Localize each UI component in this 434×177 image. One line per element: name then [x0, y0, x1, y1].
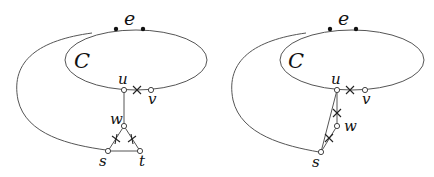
edge-e-endpoint: [328, 27, 332, 31]
label-c: C: [74, 49, 90, 73]
label-e: e: [338, 7, 349, 29]
label-s: s: [312, 153, 320, 171]
edge-e-endpoint: [354, 27, 358, 31]
edge-e-endpoint: [114, 27, 118, 31]
label-v: v: [362, 90, 371, 108]
label-v: v: [148, 90, 157, 108]
right-panel: e C u v w s: [232, 7, 424, 171]
label-s: s: [99, 152, 107, 170]
outer-path-to-s: [232, 33, 319, 152]
label-u: u: [331, 70, 341, 88]
edge-us: [321, 90, 337, 152]
vertex-w: [334, 123, 339, 128]
vertex-u: [334, 87, 339, 92]
label-c: C: [288, 49, 304, 73]
label-w: w: [344, 117, 357, 135]
cross-mark: [325, 134, 333, 142]
edge-ws: [321, 126, 337, 152]
figure: e C u v w s t e C: [0, 0, 434, 177]
label-e: e: [124, 7, 135, 29]
outer-path-to-s: [17, 33, 106, 150]
vertex-u: [121, 87, 126, 92]
label-t: t: [139, 152, 146, 170]
left-panel: e C u v w s t: [17, 7, 207, 170]
label-w: w: [110, 110, 123, 128]
edge-e-endpoint: [141, 27, 145, 31]
label-u: u: [118, 70, 128, 88]
